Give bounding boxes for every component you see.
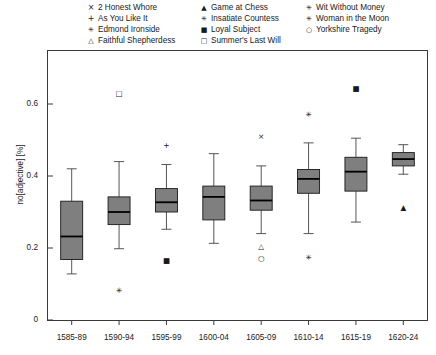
x-axis-tick-label: 1605-09 (234, 333, 288, 342)
legend-item-label: Wit Without Money (316, 3, 385, 13)
y-axis-title: no[adjective] [%] (16, 115, 25, 235)
legend-item: △Faithful Shepherdess (84, 35, 197, 46)
legend-item-label: Insatiate Countess (211, 14, 279, 24)
legend-item: ✳Wit Without Money (302, 2, 432, 13)
legend-item: ×2 Honest Whore (84, 2, 197, 13)
triangle-filled-marker: ▲ (197, 3, 211, 13)
x-axis-tick-label: 1590-94 (92, 333, 146, 342)
triangle-outline-marker: △ (84, 36, 98, 46)
x-axis-tick-label: 1620-24 (376, 333, 430, 342)
legend-item-label: Edmond Ironside (98, 25, 160, 35)
legend-item-label: As You Like It (98, 14, 148, 24)
y-axis-tick-label: 0.6 (8, 99, 38, 108)
legend-item-label: Woman in the Moon (316, 14, 389, 24)
cross-x-marker: × (84, 3, 98, 13)
legend-item: ✳Insatiate Countess (197, 13, 302, 24)
square-outline-marker: □ (197, 36, 211, 46)
legend-item: □Summer's Last Will (197, 35, 302, 46)
asterisk-marker: ✳ (302, 14, 316, 24)
x-axis-tick-label: 1595-99 (139, 333, 193, 342)
legend-item: ▲Game at Chess (197, 2, 302, 13)
legend-column-1: ×2 Honest Whore+As You Like It✳Edmond Ir… (84, 2, 197, 46)
legend-item-label: 2 Honest Whore (98, 3, 157, 13)
square-filled-marker: ■ (197, 25, 211, 35)
x-axis-tick-label: 1615-19 (329, 333, 383, 342)
legend-item: ✳Woman in the Moon (302, 13, 432, 24)
legend-column-2: ▲Game at Chess✳Insatiate Countess■Loyal … (197, 2, 302, 46)
plot-area (47, 50, 428, 321)
legend-item-label: Loyal Subject (211, 25, 260, 35)
legend-column-3: ✳Wit Without Money✳Woman in the Moon○Yor… (302, 2, 432, 46)
legend-item-label: Game at Chess (211, 3, 268, 13)
legend-item-label: Yorkshire Tragedy (316, 25, 382, 35)
legend-item-label: Summer's Last Will (211, 36, 281, 46)
legend-item-label: Faithful Shepherdess (98, 36, 175, 46)
x-axis-tick-label: 1610-14 (282, 333, 336, 342)
plus-marker: + (84, 14, 98, 24)
y-axis-tick-label: 0 (8, 315, 38, 324)
y-axis-tick-label: 0.2 (8, 243, 38, 252)
x-axis-tick-label: 1585-89 (45, 333, 99, 342)
asterisk-marker: ✳ (302, 3, 316, 13)
asterisk-marker: ✳ (197, 14, 211, 24)
legend: ×2 Honest Whore+As You Like It✳Edmond Ir… (84, 2, 432, 46)
asterisk-marker: ✳ (84, 25, 98, 35)
legend-item: +As You Like It (84, 13, 197, 24)
legend-item: ○Yorkshire Tragedy (302, 24, 432, 35)
legend-item: ■Loyal Subject (197, 24, 302, 35)
legend-item: ✳Edmond Ironside (84, 24, 197, 35)
circle-outline-marker: ○ (302, 25, 316, 35)
x-axis-tick-label: 1600-04 (187, 333, 241, 342)
